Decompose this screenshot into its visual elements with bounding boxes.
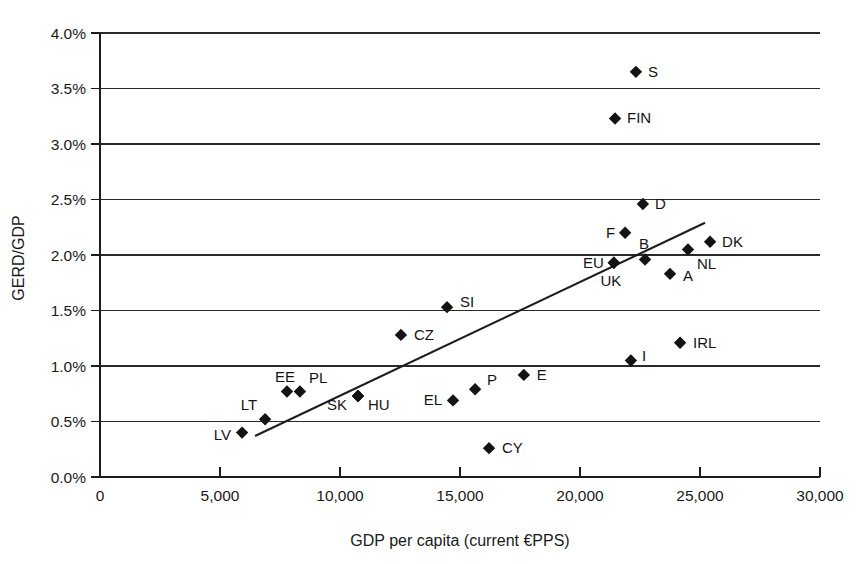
data-point-label: EU — [583, 254, 604, 271]
y-tick-label: 2.5% — [51, 191, 87, 208]
data-point: IRL — [674, 334, 717, 351]
data-point-marker — [664, 268, 676, 280]
data-point-label: F — [606, 224, 615, 241]
data-point-label: EL — [424, 391, 442, 408]
data-point: E — [518, 366, 547, 383]
data-point-marker — [447, 394, 459, 406]
data-point: FIN — [609, 109, 651, 126]
data-point-label: LT — [241, 396, 257, 413]
data-point-label: S — [648, 63, 658, 80]
data-point-label: NL — [697, 255, 716, 272]
data-point: P — [469, 371, 497, 395]
scatter-chart: 0.0%0.5%1.0%1.5%2.0%2.5%3.0%3.5%4.0% 05,… — [0, 0, 868, 564]
data-point-marker — [682, 243, 694, 255]
y-tick-label: 1.0% — [51, 358, 87, 375]
x-tick-label: 0 — [96, 487, 105, 504]
chart-canvas: 0.0%0.5%1.0%1.5%2.0%2.5%3.0%3.5%4.0% 05,… — [0, 0, 868, 564]
data-point-label: I — [642, 347, 646, 364]
data-points: SFINDFDKBNLEUUKASICZIRLIEEEPLPHUSKELLTLV… — [214, 63, 743, 456]
data-point-label: A — [683, 267, 693, 284]
x-tick-label: 5,000 — [201, 487, 240, 504]
x-tick-label: 25,000 — [676, 487, 724, 504]
y-tick-label: 3.0% — [51, 136, 87, 153]
data-point-marker — [236, 426, 248, 438]
y-tick-label: 1.5% — [51, 302, 87, 319]
data-point-marker — [609, 112, 621, 124]
data-point-marker — [619, 227, 631, 239]
data-point-marker — [469, 383, 481, 395]
data-point-label: B — [639, 235, 649, 252]
data-point: LV — [214, 426, 248, 443]
y-tick-label: 2.0% — [51, 247, 87, 264]
data-point-label: FIN — [627, 109, 651, 126]
data-point-label: D — [655, 195, 666, 212]
data-point-label: SI — [460, 293, 474, 310]
data-point-label: IRL — [693, 334, 716, 351]
x-tick-label: 15,000 — [436, 487, 484, 504]
grid-lines — [100, 33, 820, 422]
data-point-marker — [352, 390, 364, 402]
x-tick-marks — [100, 467, 820, 477]
data-point-label: P — [487, 371, 497, 388]
data-point: EE — [275, 368, 295, 398]
y-tick-label: 3.5% — [51, 80, 87, 97]
data-point-marker — [395, 329, 407, 341]
y-tick-marks — [91, 33, 100, 477]
y-tick-labels: 0.0%0.5%1.0%1.5%2.0%2.5%3.0%3.5%4.0% — [51, 25, 87, 486]
data-point: S — [630, 63, 658, 80]
data-point-label: HU — [368, 396, 390, 413]
data-point: B — [639, 235, 651, 265]
data-point-marker — [674, 336, 686, 348]
x-axis-title: GDP per capita (current €PPS) — [350, 532, 569, 549]
data-point-label: E — [537, 366, 547, 383]
data-point: DK — [704, 233, 743, 250]
data-point-label: SK — [327, 396, 347, 413]
y-tick-label: 0.0% — [51, 469, 87, 486]
data-point-label: PL — [309, 369, 327, 386]
y-axis-title: GERD/GDP — [10, 215, 27, 300]
y-tick-label: 4.0% — [51, 25, 87, 42]
data-point-marker — [630, 66, 642, 78]
data-point-label: CZ — [414, 326, 434, 343]
data-point: PL — [294, 369, 328, 398]
data-point-marker — [259, 413, 271, 425]
data-point-marker — [441, 301, 453, 313]
data-point-label: UK — [600, 272, 621, 289]
data-point-label: LV — [214, 426, 231, 443]
data-point: I — [625, 347, 646, 366]
x-tick-label: 20,000 — [556, 487, 604, 504]
data-point-marker — [625, 354, 637, 366]
data-point-marker — [281, 385, 293, 397]
x-tick-label: 10,000 — [316, 487, 364, 504]
data-point: CZ — [395, 326, 434, 343]
data-point-label: CY — [502, 439, 523, 456]
x-tick-label: 30,000 — [796, 487, 844, 504]
data-point-marker — [518, 369, 530, 381]
data-point: EL — [424, 391, 460, 408]
data-point: F — [606, 224, 631, 241]
data-point-marker — [294, 385, 306, 397]
data-point-label: EE — [275, 368, 295, 385]
data-point-label: DK — [722, 233, 743, 250]
y-tick-label: 0.5% — [51, 413, 87, 430]
data-point: D — [637, 195, 666, 212]
data-point-marker — [483, 442, 495, 454]
x-tick-labels: 05,00010,00015,00020,00025,00030,000 — [96, 487, 844, 504]
data-point-marker — [704, 235, 716, 247]
data-point: A — [664, 267, 693, 284]
data-point: CY — [483, 439, 523, 456]
